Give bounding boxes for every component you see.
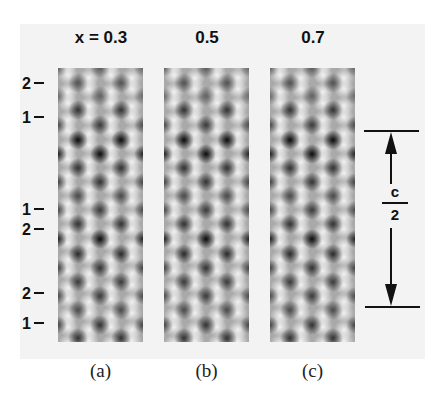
row-label-2: 1 xyxy=(22,202,44,218)
row-label-text: 1 xyxy=(22,315,31,332)
row-label-text: 1 xyxy=(22,109,31,126)
lattice-image-c xyxy=(270,68,355,342)
row-label-dash xyxy=(34,208,44,210)
row-label-3: 2 xyxy=(22,222,44,238)
row-label-dash xyxy=(34,82,44,84)
arrow-down-icon xyxy=(385,284,397,306)
row-label-dash xyxy=(34,116,44,118)
panel-caption-b: (b) xyxy=(164,360,249,382)
fraction-bar xyxy=(382,202,408,204)
panel-caption-c: (c) xyxy=(270,360,355,382)
row-label-text: 1 xyxy=(22,201,31,218)
column-title-b: 0.5 xyxy=(162,28,252,48)
hrtem-panel-b xyxy=(164,68,249,342)
fraction-denominator: 2 xyxy=(382,207,408,222)
row-label-1: 1 xyxy=(22,110,44,126)
hrtem-panel-a xyxy=(58,68,143,342)
lattice-image-a xyxy=(58,68,143,342)
row-label-0: 2 xyxy=(22,76,44,92)
lattice-image-b xyxy=(164,68,249,342)
column-title-a: x = 0.3 xyxy=(56,28,146,48)
row-label-text: 2 xyxy=(22,75,31,92)
hrtem-panel-c xyxy=(270,68,355,342)
row-label-4: 2 xyxy=(22,286,44,302)
panel-caption-a: (a) xyxy=(58,360,143,382)
row-label-text: 2 xyxy=(22,285,31,302)
column-title-c: 0.7 xyxy=(268,28,358,48)
fraction-numerator: c xyxy=(382,184,408,199)
row-label-dash xyxy=(34,228,44,230)
row-label-dash xyxy=(34,292,44,294)
arrow-up-shaft xyxy=(390,150,392,184)
arrow-down-shaft xyxy=(390,228,392,286)
row-label-dash xyxy=(34,322,44,324)
c-over-2-label: c 2 xyxy=(382,184,408,222)
dimension-bottom-tick xyxy=(365,306,420,308)
row-label-5: 1 xyxy=(22,316,44,332)
row-label-text: 2 xyxy=(22,221,31,238)
